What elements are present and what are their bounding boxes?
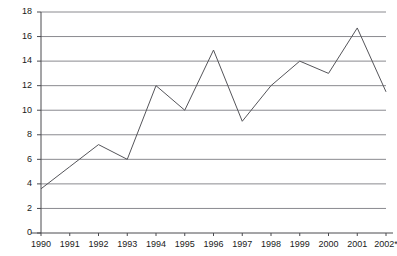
y-tick-label: 14 bbox=[22, 55, 32, 65]
x-tick-label: 1991 bbox=[60, 239, 80, 249]
y-tick-label: 4 bbox=[27, 178, 32, 188]
x-tick-label: 1992 bbox=[88, 239, 108, 249]
x-tick-label: 2001 bbox=[347, 239, 367, 249]
y-tick-label: 0 bbox=[27, 227, 32, 237]
y-tick-label: 16 bbox=[22, 31, 32, 41]
x-tick-label: 1994 bbox=[146, 239, 166, 249]
chart-canvas: 024681012141618 199019911992199319941995… bbox=[0, 0, 397, 256]
x-tick-label: 2002* bbox=[374, 239, 397, 249]
line-chart: 024681012141618 199019911992199319941995… bbox=[0, 0, 397, 256]
y-tick-label: 12 bbox=[22, 80, 32, 90]
x-tick-label: 1999 bbox=[290, 239, 310, 249]
chart-background bbox=[0, 0, 397, 256]
y-tick-label: 2 bbox=[27, 203, 32, 213]
y-tick-label: 6 bbox=[27, 154, 32, 164]
x-tick-label: 1990 bbox=[31, 239, 51, 249]
y-tick-label: 18 bbox=[22, 6, 32, 16]
y-tick-label: 10 bbox=[22, 105, 32, 115]
y-tick-label: 8 bbox=[27, 129, 32, 139]
x-tick-label: 1997 bbox=[232, 239, 252, 249]
x-tick-label: 1998 bbox=[261, 239, 281, 249]
x-tick-label: 2000 bbox=[318, 239, 338, 249]
x-tick-label: 1993 bbox=[117, 239, 137, 249]
x-tick-label: 1995 bbox=[175, 239, 195, 249]
x-tick-label: 1996 bbox=[203, 239, 223, 249]
